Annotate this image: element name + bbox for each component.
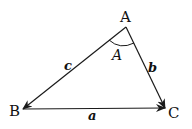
triangle-diagram: A B C A c b a [0, 0, 192, 129]
angle-label: A [110, 47, 122, 63]
vertex-label-b: B [9, 102, 20, 120]
vertex-label-c: C [168, 104, 179, 122]
side-label-a: a [88, 108, 96, 123]
vertex-label-a: A [119, 8, 131, 26]
side-b-vector [126, 27, 165, 108]
side-label-b: b [148, 60, 157, 75]
angle-arc [109, 40, 134, 46]
side-label-c: c [64, 58, 72, 73]
side-c-vector [23, 27, 126, 109]
